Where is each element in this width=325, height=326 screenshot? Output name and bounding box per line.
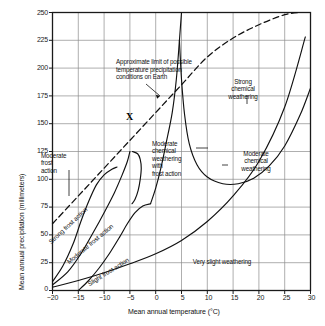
ytick-label-200: 200 [28, 64, 48, 71]
ytick-label-50: 50 [28, 230, 48, 237]
y-axis-title: Mean annual precipitation (millimeters) [18, 174, 25, 290]
xtick-label--5: −5 [122, 294, 139, 301]
ytick-label-25: 25 [28, 258, 48, 265]
region-label-strong-chemical-weathering: Strong chemical weathering [219, 78, 267, 100]
xtick-label-30: 30 [303, 294, 320, 301]
xtick-label-25: 25 [278, 294, 295, 301]
xtick-label-15: 15 [226, 294, 243, 301]
region-label-moderate-chemical-weathering-with-frost-action: Moderate chemical weathering with frost … [152, 140, 196, 177]
xtick-label--10: −10 [96, 294, 113, 301]
region-label-moderate-frost-action: Moderate frost action [41, 152, 83, 174]
xtick-label--20: −20 [44, 294, 61, 301]
ytick-label-75: 75 [28, 202, 48, 209]
earth-limit-annotation: Approximate limit of possible temperatur… [116, 58, 212, 81]
xtick-label-5: 5 [174, 294, 191, 301]
xtick-label-10: 10 [200, 294, 217, 301]
ytick-label-150: 150 [28, 119, 48, 126]
ytick-label-175: 175 [28, 92, 48, 99]
xtick-label--15: −15 [70, 294, 87, 301]
ytick-label-0: 0 [28, 285, 48, 292]
point-x-marker: X [126, 111, 133, 122]
x-axis-title: Mean annual temperature (°C) [128, 308, 220, 315]
ytick-label-250: 250 [28, 9, 48, 16]
ytick-label-100: 100 [28, 175, 48, 182]
ytick-label-225: 225 [28, 36, 48, 43]
region-label-very-slight-weathering: Very slight weathering [180, 258, 264, 265]
xtick-label-0: 0 [148, 294, 165, 301]
xtick-label-20: 20 [252, 294, 269, 301]
region-label-moderate-chemical-weathering: Moderate chemical weathering [231, 150, 281, 172]
